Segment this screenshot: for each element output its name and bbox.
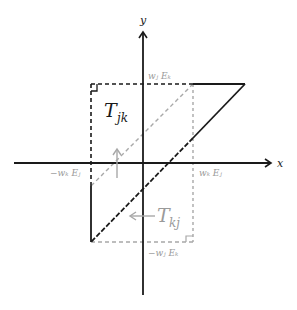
svg-text:jk: jk: [114, 111, 128, 125]
diagram-canvas: y x wⱼ Eₖ −wₖ Eⱼ wₖ Eⱼ −wⱼ Eₖ T jk T kj: [0, 0, 297, 310]
right-tick-label: wₖ Eⱼ: [199, 168, 222, 178]
left-tick-label: −wₖ Eⱼ: [50, 168, 81, 178]
bottom-tick-label: −wⱼ Eₖ: [148, 248, 179, 258]
svg-text:kj: kj: [169, 216, 180, 230]
svg-text:T: T: [104, 99, 118, 121]
top-tick-label: wⱼ Eₖ: [148, 71, 172, 81]
y-axis-label: y: [139, 14, 147, 27]
region-label-tkj: T kj: [157, 204, 180, 230]
region-label-tjk: T jk: [104, 99, 128, 125]
x-axis-label: x: [277, 157, 284, 170]
